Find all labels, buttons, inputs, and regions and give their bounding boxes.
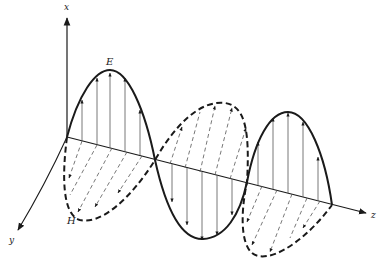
electric-field-label: E <box>105 56 114 67</box>
em-wave-diagram: x y z <box>0 0 385 266</box>
y-axis <box>18 137 67 230</box>
x-axis-label: x <box>64 2 69 12</box>
magnetic-field-label: H <box>66 215 76 226</box>
magnetic-field-vectors <box>69 106 320 252</box>
y-axis-label: y <box>8 235 15 245</box>
electric-field-vectors <box>82 73 318 240</box>
z-axis-label: z <box>370 210 376 220</box>
